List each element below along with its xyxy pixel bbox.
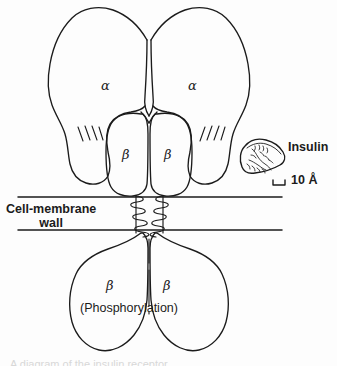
alpha-label-right: α — [188, 79, 197, 94]
scale-label: 10 Å — [291, 173, 317, 187]
phosphorylation-label: (Phosphorylation) — [80, 301, 178, 315]
transmembrane-helix-left — [131, 196, 149, 237]
alpha-subunit-left — [48, 8, 147, 185]
cell-membrane-wall-label: Cell-membrane wall — [6, 202, 96, 230]
membrane-label-line2: wall — [6, 216, 96, 230]
beta-label-lower-right: β — [163, 279, 171, 294]
beta-label-upper-left: β — [122, 148, 130, 163]
hatch-marks-left — [78, 126, 103, 141]
cut-off-caption: A diagram of the insulin receptor — [10, 358, 168, 366]
alpha-label-left: α — [101, 79, 110, 94]
hatch-marks-right — [200, 126, 225, 141]
alpha-center-cleft-right — [149, 40, 153, 116]
membrane-label-line1: Cell-membrane — [6, 202, 96, 216]
insulin-backbone — [247, 145, 273, 173]
transmembrane-helix-right — [150, 196, 168, 237]
alpha-center-cleft — [145, 40, 149, 116]
scale-bar — [273, 180, 285, 185]
insulin-label: Insulin — [288, 140, 328, 154]
beta-label-lower-left: β — [106, 279, 114, 294]
beta-subunit-lower-right — [150, 233, 228, 351]
beta-label-upper-right: β — [164, 148, 172, 163]
